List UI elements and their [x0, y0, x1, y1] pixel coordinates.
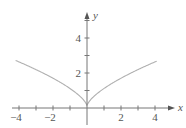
x-axis-label: x [177, 101, 183, 113]
x-tick-label: −4 [10, 111, 22, 123]
y-tick-label: 4 [76, 32, 82, 44]
x-tick-label: 4 [152, 111, 158, 123]
function-plot: −4−22424 x y [0, 0, 186, 128]
curve [16, 60, 157, 105]
y-axis-arrow-icon [85, 12, 90, 19]
y-tick-label: 2 [76, 67, 82, 79]
x-tick-label: 2 [118, 111, 124, 123]
x-axis-arrow-icon [168, 106, 175, 111]
x-tick-label: −2 [44, 111, 56, 123]
function-curve [16, 60, 157, 105]
y-axis-label: y [92, 9, 98, 21]
tick-labels: −4−22424 [10, 32, 158, 123]
